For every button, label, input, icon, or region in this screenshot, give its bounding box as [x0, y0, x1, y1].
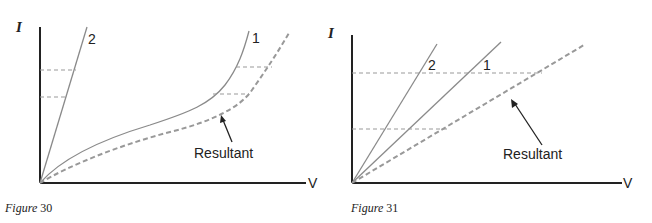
resultant-line	[352, 45, 584, 183]
figure-caption: Figure 30	[5, 201, 52, 216]
pointer-arrow	[223, 120, 232, 142]
figure-31: I V 2 1 Resultant Figure 31	[326, 0, 652, 223]
figure-30-plot	[0, 0, 326, 223]
resultant-label: Resultant	[503, 147, 562, 161]
resultant-label: Resultant	[194, 146, 253, 160]
y-axis-label: I	[16, 20, 22, 35]
line-1	[352, 42, 501, 183]
line-2-label: 2	[428, 58, 436, 72]
x-axis-label: V	[623, 176, 632, 190]
curve-2-label: 2	[88, 32, 96, 46]
curve-1-label: 1	[252, 31, 260, 45]
y-axis-label: I	[328, 26, 334, 41]
arrowhead-icon	[220, 115, 226, 123]
line-2	[352, 44, 437, 183]
line-1-label: 1	[483, 58, 491, 72]
figure-30: I V 1 2 Resultant Figure 30	[0, 0, 326, 223]
figure-caption: Figure 31	[351, 201, 398, 216]
curve-2	[40, 27, 87, 183]
pointer-arrow	[515, 104, 542, 145]
figure-31-plot	[326, 0, 652, 223]
x-axis-label: V	[308, 176, 317, 190]
